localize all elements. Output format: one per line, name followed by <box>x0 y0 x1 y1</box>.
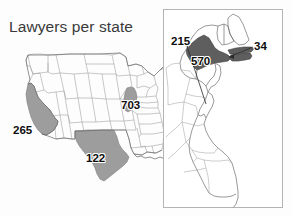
value-label-new-york: 570 <box>191 56 210 68</box>
value-label-california: 265 <box>13 125 32 137</box>
value-label-pennsylvania: 215 <box>171 36 190 48</box>
value-label-rhode-island: 34 <box>254 41 267 53</box>
value-label-texas: 122 <box>86 153 105 165</box>
value-label-illinois: 703 <box>121 100 140 112</box>
page-title: Lawyers per state <box>9 19 133 35</box>
lawyers-per-state-figure: Lawyers per state 265 122 703 215 570 34 <box>0 0 292 216</box>
